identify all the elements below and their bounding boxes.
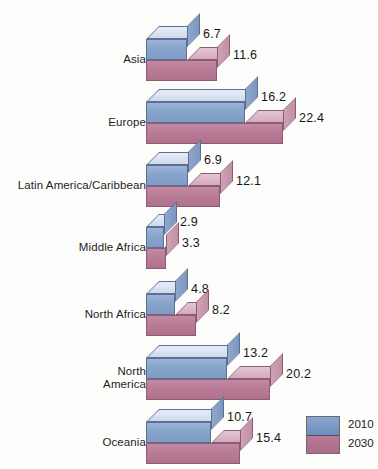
category-label: Asia (123, 53, 146, 66)
bar-2010-front-face (146, 102, 245, 123)
legend-label-2030: 2030 (348, 437, 374, 449)
bar-2010-top-face (146, 89, 258, 102)
value-label-2030: 11.6 (233, 48, 257, 62)
bar-2010-side-face (175, 268, 188, 302)
category-label: Oceania (102, 436, 146, 449)
bar-2010-side-face (187, 13, 200, 47)
legend-swatch-2010 (307, 417, 339, 435)
bar-2010-front-face (146, 294, 175, 315)
value-label-2030: 15.4 (256, 431, 281, 445)
value-label-2030: 8.2 (212, 303, 230, 317)
bar-2010-side-face (211, 396, 224, 430)
legend-label-2010: 2010 (348, 418, 374, 430)
bar-2030-front-face (146, 60, 217, 81)
bar-2010-side-face (245, 76, 258, 110)
value-label-2010: 6.9 (204, 153, 222, 167)
value-label-2010: 2.9 (180, 215, 198, 229)
legend-swatch-2030 (307, 435, 339, 453)
bar-2010-front-face (146, 422, 211, 443)
bar-2010-side-face (227, 332, 240, 366)
bar-2030-front-face (146, 315, 196, 336)
legend-swatch (306, 416, 340, 454)
bar-2010-front-face (146, 227, 164, 248)
category-label: North Africa (85, 308, 146, 321)
category-label: Latin America/Caribbean (18, 179, 146, 192)
category-label: Middle Africa (79, 241, 146, 254)
bar-2010-front-face (146, 39, 187, 60)
value-label-2030: 3.3 (182, 236, 200, 250)
bar-2030-front-face (146, 379, 270, 400)
value-label-2010: 6.7 (203, 27, 221, 41)
value-label-2030: 20.2 (286, 367, 311, 381)
bar-2010-side-face (188, 139, 201, 173)
bar-chart: Asia6.711.6Europe16.222.4Latin America/C… (0, 0, 378, 469)
bar-2030-front-face (146, 248, 166, 269)
bar-2030-front-face (146, 123, 283, 144)
bar-2010-front-face (146, 358, 227, 379)
value-label-2010: 16.2 (261, 90, 286, 104)
bar-2030-front-face (146, 186, 220, 207)
category-label: Europe (108, 116, 146, 129)
bar-2030-front-face (146, 443, 240, 464)
bar-2010-front-face (146, 165, 188, 186)
value-label-2030: 12.1 (236, 174, 261, 188)
bar-2030-side-face (270, 353, 283, 387)
category-label: North America (103, 365, 146, 390)
value-label-2010: 13.2 (243, 346, 268, 360)
value-label-2030: 22.4 (299, 111, 324, 125)
bar-2010-top-face (146, 345, 240, 358)
